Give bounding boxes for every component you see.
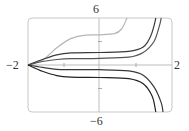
x-max-label: 2 (174, 59, 180, 71)
y-min-label: −6 (90, 115, 103, 127)
x-min-label: −2 (6, 59, 19, 71)
chart-plot (0, 0, 189, 131)
y-max-label: 6 (93, 3, 99, 15)
curve-lower-1 (28, 65, 163, 112)
